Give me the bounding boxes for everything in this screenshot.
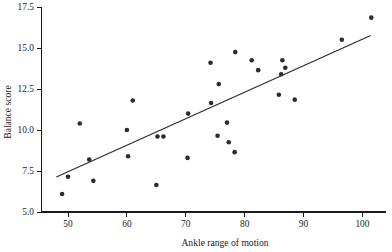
x-tick-label: 60 [122,219,132,229]
data-point-marker [256,68,261,73]
data-point-marker [185,156,190,161]
data-point-marker [154,183,159,188]
data-point-marker [208,60,213,65]
data-point-marker [161,134,166,139]
data-point-marker [126,154,131,159]
x-tick-label: 100 [355,219,369,229]
data-point-marker [209,101,214,106]
data-point-marker [66,174,71,179]
x-tick-label: 70 [181,219,191,229]
y-tick-label: 12.5 [18,84,35,94]
y-tick-label: 15.0 [18,43,35,53]
data-point-marker [77,121,82,126]
data-point-marker [186,111,191,116]
x-tick-label: 80 [240,219,250,229]
x-tick-label: 50 [63,219,73,229]
data-point-marker [232,150,237,155]
data-point-marker [225,120,230,125]
data-point-marker [60,192,65,197]
y-tick-label: 7.5 [22,166,34,176]
data-point-marker [155,134,160,139]
x-tick-label: 90 [299,219,309,229]
data-point-marker [130,98,135,103]
x-axis-title: Ankle range of motion [181,237,268,248]
data-points [60,15,374,196]
trend-line [57,36,370,177]
y-tick-label: 10.0 [18,125,35,135]
data-point-marker [125,128,130,133]
scatter-plot-figure: 5.07.510.012.515.017.55060708090100 Ankl… [0,0,392,252]
data-point-marker [215,133,220,138]
y-axis-title: Balance score [2,85,13,139]
y-tick-label: 17.5 [18,2,35,12]
plot-canvas: 5.07.510.012.515.017.55060708090100 Ankl… [0,0,392,252]
data-point-marker [91,179,96,184]
data-point-marker [280,58,285,63]
data-point-marker [340,38,345,43]
data-point-marker [279,72,284,77]
regression-line [57,36,370,177]
data-point-marker [216,82,221,87]
data-point-marker [283,65,288,70]
y-tick-label: 5.0 [22,207,34,217]
data-point-marker [226,140,231,145]
data-point-marker [277,92,282,97]
data-point-marker [233,50,238,55]
data-point-marker [249,58,254,63]
data-point-marker [87,157,92,162]
data-point-marker [292,97,297,102]
data-point-marker [369,15,374,20]
